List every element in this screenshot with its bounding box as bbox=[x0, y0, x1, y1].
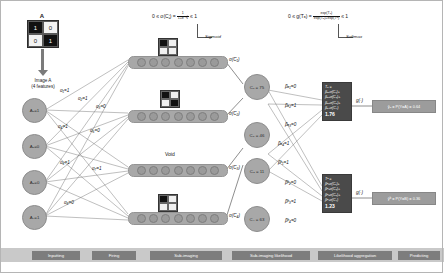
subimage-bar-2 bbox=[128, 110, 228, 123]
bar-unit bbox=[137, 112, 146, 121]
softmax-formula: 0 ≤ g(Tₐ) =exp(Tₐ)exp(Tₐ)+exp(Tᵇ)≤ 1 bbox=[288, 12, 348, 21]
input-node-2: A₂=0 bbox=[22, 134, 47, 159]
thumb-cell bbox=[161, 91, 170, 99]
subimage-bar-4-units bbox=[129, 213, 227, 224]
subimage-thumbnail-1 bbox=[158, 38, 178, 56]
bar-unit bbox=[137, 166, 146, 175]
bar-unit bbox=[161, 112, 170, 121]
thumb-cell bbox=[168, 195, 177, 203]
sigma-label-3: σ(C₃) bbox=[229, 165, 240, 170]
bar-unit bbox=[161, 58, 170, 67]
likelihood-node-4: C₄ = 63 bbox=[244, 206, 270, 232]
stage-inputting[interactable]: Inputting bbox=[32, 251, 80, 260]
stage-likelihood-aggregation[interactable]: Likelihood aggregation bbox=[318, 251, 392, 260]
flow-arrow-head-icon bbox=[38, 70, 48, 76]
bar-unit bbox=[161, 166, 170, 175]
matrix-cell-1-0: 0 bbox=[28, 34, 43, 47]
bar-unit bbox=[137, 58, 146, 67]
sigmoid-denominator: 1+e⁻ᶜⱼ bbox=[177, 17, 189, 21]
beta-a-label-1: βₐ₁=0 bbox=[285, 84, 296, 89]
thumb-cell bbox=[159, 39, 168, 47]
softmax-fraction: exp(Tₐ)exp(Tₐ)+exp(Tᵇ) bbox=[313, 12, 341, 21]
subimage-bar-1-units bbox=[129, 57, 227, 68]
thumb-cell bbox=[170, 99, 179, 107]
prediction-box-b: ŷᵇ = P(Y=B) = 0.36 bbox=[372, 192, 436, 205]
beta-b-label-4: βᵇ₄=0 bbox=[285, 218, 296, 223]
bar-unit bbox=[174, 58, 183, 67]
thumb-cell bbox=[168, 39, 177, 47]
prediction-box-a: ŷₐ = P(Y=A) = 0.64 bbox=[372, 100, 436, 113]
bar-unit bbox=[174, 112, 183, 121]
thumb-cell bbox=[170, 91, 179, 99]
thumb-cell bbox=[159, 195, 168, 203]
thumb-cell bbox=[168, 47, 177, 55]
bar-unit bbox=[210, 112, 219, 121]
stage-sub-imaging-likelihood[interactable]: Sub-imaging likelihood bbox=[232, 251, 310, 260]
beta-b-label-1: βᵇ₁=1 bbox=[278, 160, 289, 165]
bar-unit bbox=[149, 112, 158, 121]
flow-arrow-shaft bbox=[41, 49, 44, 71]
bar-unit bbox=[210, 214, 219, 223]
bar-unit bbox=[198, 58, 207, 67]
subimage-bar-3-units bbox=[129, 165, 227, 176]
aggregation-box-a: Tₐ = βₐ₁σ(C₁)+ βₐ₂σ(C₂)+ βₐ₃σ(C₃)+ βₐ₄σ(… bbox=[322, 82, 352, 121]
stage-predicting[interactable]: Predicting bbox=[398, 251, 440, 260]
sigmoid-fraction: 11+e⁻ᶜⱼ bbox=[177, 12, 189, 21]
softmax-arrow-label-b: g(·) bbox=[356, 190, 363, 195]
bar-unit bbox=[186, 214, 195, 223]
bar-unit bbox=[186, 112, 195, 121]
alpha-label-5: α₅=0 bbox=[90, 128, 100, 133]
matrix-cell-1-1: 1 bbox=[43, 34, 58, 47]
bar-unit bbox=[137, 214, 146, 223]
bar-unit bbox=[149, 214, 158, 223]
input-node-1: A₁=1 bbox=[22, 98, 47, 123]
bar-unit bbox=[198, 166, 207, 175]
sigmoid-formula: 0 ≤ σ(Cⱼ) =11+e⁻ᶜⱼ≤ 1 bbox=[152, 12, 197, 21]
alpha-label-3: α₃=0 bbox=[96, 104, 106, 109]
bar-unit bbox=[149, 166, 158, 175]
likelihood-node-3: C₃ = 11 bbox=[244, 158, 270, 184]
bar-unit bbox=[198, 112, 207, 121]
alpha-label-6: α₆=1 bbox=[60, 160, 70, 165]
alpha-label-7: α₇=1 bbox=[92, 166, 101, 171]
bar-unit bbox=[174, 214, 183, 223]
input-node-3: A₃=0 bbox=[22, 170, 47, 195]
sigmoid-formula-tail: ≤ 1 bbox=[190, 13, 197, 19]
bar-unit bbox=[210, 166, 219, 175]
bar-unit bbox=[174, 166, 183, 175]
subimage-bar-2-units bbox=[129, 111, 227, 122]
alpha-label-4: α₄=1 bbox=[58, 124, 68, 129]
alpha-label-1: α₁=1 bbox=[60, 88, 69, 93]
bar-unit bbox=[186, 58, 195, 67]
softmax-formula-lhs: 0 ≤ g(Tₐ) = bbox=[288, 13, 312, 19]
alpha-label-8: α₈=0 bbox=[64, 200, 74, 205]
sigma-label-4: σ(C₄) bbox=[229, 213, 240, 218]
sigma-label-1: σ(C₁) bbox=[229, 57, 240, 62]
sigmoid-formula-lhs: 0 ≤ σ(Cⱼ) = bbox=[152, 13, 176, 19]
beta-a-label-3: βₐ₃=0 bbox=[285, 122, 296, 127]
matrix-cell-0-1: 0 bbox=[43, 21, 58, 34]
bar-unit bbox=[210, 58, 219, 67]
bar-unit bbox=[186, 166, 195, 175]
subimage-bar-4 bbox=[128, 212, 228, 225]
likelihood-node-1: C₁ = 75 bbox=[244, 74, 270, 100]
agg-a-total: 1.76 bbox=[325, 111, 349, 118]
softmax-formula-tail: ≤ 1 bbox=[341, 13, 348, 19]
softmax-name-label: Softmax bbox=[346, 34, 362, 39]
thumb-cell bbox=[159, 47, 168, 55]
sigma-label-2: σ(C₂) bbox=[229, 111, 240, 116]
stage-firing[interactable]: Firing bbox=[92, 251, 136, 260]
thumb-cell bbox=[168, 203, 177, 211]
input-node-4: A₄=1 bbox=[22, 205, 47, 230]
stage-sub-imaging[interactable]: Sub-imaging bbox=[150, 251, 222, 260]
bar-unit bbox=[161, 214, 170, 223]
thumb-cell bbox=[161, 99, 170, 107]
softmax-denominator: exp(Tₐ)+exp(Tᵇ) bbox=[313, 17, 341, 21]
subimage-thumbnail-2 bbox=[160, 90, 180, 108]
likelihood-node-2: C₂ = 46 bbox=[244, 122, 270, 148]
bar-unit bbox=[149, 58, 158, 67]
alpha-label-2: α₂=1 bbox=[78, 96, 88, 101]
aggregation-box-b: Tᵇ = βᵇ₁σ(C₁)+ βᵇ₂σ(C₂)+ βᵇ₃σ(C₃)+ βᵇ₄σ(… bbox=[322, 174, 352, 213]
subimage-bar-1 bbox=[128, 56, 228, 69]
sigmoid-name-label: Sigmoid bbox=[205, 34, 221, 39]
